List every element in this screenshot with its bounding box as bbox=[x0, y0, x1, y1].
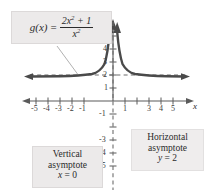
x-tick-label: -3 bbox=[55, 104, 62, 113]
callout-leader-line bbox=[57, 46, 79, 76]
x-tick-label: -5 bbox=[31, 104, 38, 113]
function-formula-callout: g(x) = 2x2 + 1 x2 bbox=[11, 11, 112, 44]
x-tick-label: 4 bbox=[159, 104, 163, 113]
y-tick-label: 2 bbox=[103, 70, 107, 79]
y-tick-label: -1 bbox=[99, 109, 106, 118]
curve-right-branch bbox=[113, 22, 190, 80]
function-lhs: g(x) bbox=[30, 21, 48, 33]
x-tick-label: 5 bbox=[171, 104, 175, 113]
equals-sign: = bbox=[50, 21, 56, 33]
vertical-asymptote-line2: asymptote bbox=[33, 160, 102, 171]
horizontal-asymptote-line1: Horizontal bbox=[132, 132, 203, 143]
fraction-denominator: x2 bbox=[71, 28, 83, 39]
horizontal-asymptote-callout: Horizontal asymptote y = 2 bbox=[131, 129, 204, 171]
function-fraction: 2x2 + 1 x2 bbox=[60, 16, 94, 39]
horizontal-asymptote-equation: y = 2 bbox=[132, 153, 203, 164]
x-tick-label: -1 bbox=[79, 104, 86, 113]
x-axis-label: x bbox=[193, 101, 197, 111]
y-tick-label: 3 bbox=[103, 57, 107, 66]
vertical-asymptote-line1: Vertical bbox=[33, 149, 102, 160]
vertical-asymptote-callout: Vertical asymptote x = 0 bbox=[32, 146, 103, 188]
y-tick-label: 4 bbox=[103, 44, 107, 53]
x-tick-label: -2 bbox=[67, 104, 74, 113]
horizontal-asymptote-line2: asymptote bbox=[132, 143, 203, 154]
vertical-asymptote-value: = 0 bbox=[62, 170, 77, 180]
y-tick-label: -3 bbox=[99, 135, 106, 144]
x-tick-label: 3 bbox=[147, 104, 151, 113]
y-tick-label: 1 bbox=[104, 83, 108, 92]
function-graph-figure: -5 -4 -3 -2 -1 1 3 4 5 4 3 2 1 -1 -3 -4 … bbox=[0, 0, 212, 196]
x-tick-label: -4 bbox=[43, 104, 50, 113]
vertical-asymptote-equation: x = 0 bbox=[33, 170, 102, 181]
horizontal-asymptote-value: = 2 bbox=[162, 153, 177, 163]
x-tick-label: 1 bbox=[123, 104, 127, 113]
